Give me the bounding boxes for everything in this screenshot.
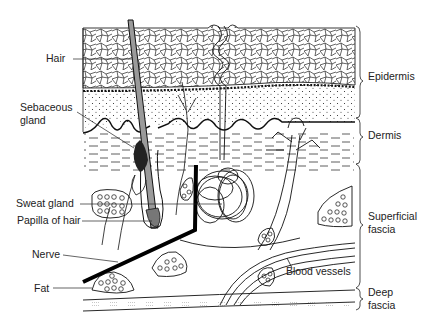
label-sweat-gland: Sweat gland bbox=[16, 197, 74, 210]
deep-fascia-layer bbox=[83, 290, 355, 311]
sweat-gland-coil bbox=[196, 168, 254, 223]
nerve-fibers bbox=[102, 175, 135, 250]
label-epidermis: Epidermis bbox=[368, 70, 415, 83]
label-dermis: Dermis bbox=[368, 129, 401, 142]
label-superficial-fascia: Superficial fascia bbox=[368, 210, 417, 236]
label-sebaceous-line1: Sebaceous bbox=[20, 101, 73, 114]
label-fat: Fat bbox=[34, 282, 49, 295]
label-blood-vessels: Blood vessels bbox=[286, 265, 351, 278]
label-sebaceous-line2: gland bbox=[20, 114, 73, 127]
label-deep-fascia: Deep fascia bbox=[368, 286, 395, 312]
epidermis-cell-layer bbox=[83, 25, 355, 88]
label-hair: Hair bbox=[46, 52, 65, 65]
label-sebaceous-gland: Sebaceous gland bbox=[20, 101, 73, 127]
dermis-layer bbox=[84, 132, 354, 172]
label-superficial-line1: Superficial bbox=[368, 210, 417, 223]
label-deep-line2: fascia bbox=[368, 299, 395, 312]
label-nerve: Nerve bbox=[32, 248, 60, 261]
label-deep-line1: Deep bbox=[368, 286, 395, 299]
skin-cross-section-diagram bbox=[0, 0, 434, 324]
label-superficial-line2: fascia bbox=[368, 223, 417, 236]
label-papilla-of-hair: Papilla of hair bbox=[17, 214, 81, 227]
layer-brackets bbox=[356, 26, 363, 310]
